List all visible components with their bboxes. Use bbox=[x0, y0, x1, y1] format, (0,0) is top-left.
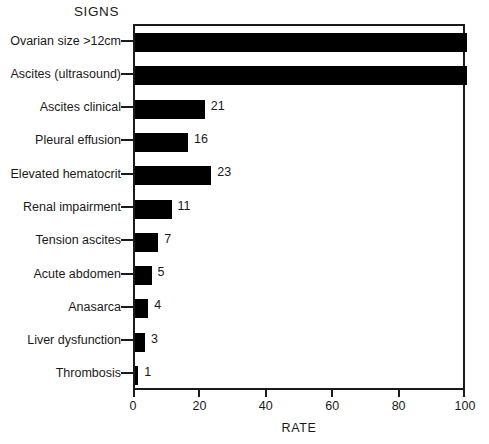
bar-value-label: 16 bbox=[194, 132, 208, 146]
bar-value-label: 4 bbox=[154, 298, 161, 312]
y-axis-category-label: Elevated hematocrit bbox=[11, 167, 121, 181]
bar-value-label: 1 bbox=[144, 365, 151, 379]
y-axis-category-label: Acute abdomen bbox=[33, 267, 121, 281]
x-axis-tick bbox=[331, 390, 333, 397]
bar bbox=[135, 133, 188, 152]
x-axis-tick-label: 20 bbox=[192, 399, 206, 413]
bar-value-label: 3 bbox=[151, 332, 158, 346]
y-axis-category-label: Tension ascites bbox=[36, 233, 121, 247]
bar-chart-figure: SIGNS Ovarian size >12cmAscites (ultraso… bbox=[0, 0, 489, 444]
y-axis-category-label: Pleural effusion bbox=[35, 133, 121, 147]
bar-value-label: 21 bbox=[211, 99, 225, 113]
x-axis-tick bbox=[198, 390, 200, 397]
bar bbox=[135, 366, 138, 385]
x-axis-tick-labels: 020406080100 bbox=[133, 399, 465, 417]
x-axis-label: RATE bbox=[133, 421, 465, 435]
y-axis-category-label: Renal impairment bbox=[23, 200, 121, 214]
y-axis-category-label: Ovarian size >12cm bbox=[10, 34, 121, 48]
x-axis-tick bbox=[463, 390, 465, 397]
bar bbox=[135, 299, 148, 318]
bar bbox=[135, 100, 205, 119]
bar-value-label: 7 bbox=[164, 232, 171, 246]
y-axis-category-label: Thrombosis bbox=[56, 366, 121, 380]
x-axis-tick bbox=[265, 390, 267, 397]
y-axis-category-label: Ascites clinical bbox=[40, 100, 121, 114]
y-axis-category-labels: Ovarian size >12cmAscites (ultrasound)As… bbox=[0, 24, 121, 390]
bar-value-label: 11 bbox=[178, 199, 191, 213]
chart-title: SIGNS bbox=[74, 4, 119, 19]
y-axis-category-label: Liver dysfunction bbox=[27, 333, 121, 347]
bar-value-label: 23 bbox=[217, 165, 231, 179]
x-axis-tick-label: 100 bbox=[455, 399, 476, 413]
bar bbox=[135, 266, 152, 285]
x-axis-tick-label: 0 bbox=[130, 399, 137, 413]
bar-value-label: 5 bbox=[158, 265, 165, 279]
x-axis-ticks bbox=[133, 390, 465, 398]
x-axis-tick-label: 80 bbox=[392, 399, 406, 413]
y-axis-category-label: Ascites (ultrasound) bbox=[11, 67, 121, 81]
bar bbox=[135, 66, 467, 85]
bar bbox=[135, 200, 172, 219]
plot-area: 2116231175431 bbox=[133, 24, 465, 390]
bar bbox=[135, 33, 467, 52]
x-axis-tick bbox=[133, 390, 135, 397]
x-axis-tick bbox=[398, 390, 400, 397]
y-axis-category-label: Anasarca bbox=[68, 300, 121, 314]
x-axis-tick-label: 60 bbox=[325, 399, 339, 413]
bar bbox=[135, 166, 211, 185]
bar bbox=[135, 233, 158, 252]
bar bbox=[135, 333, 145, 352]
x-axis-tick-label: 40 bbox=[259, 399, 273, 413]
